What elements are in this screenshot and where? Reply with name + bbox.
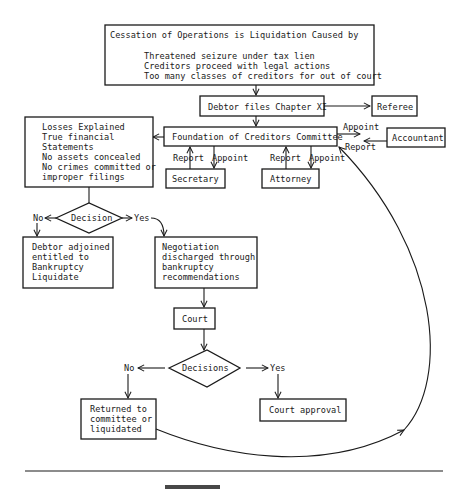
negotiation-line-3: bankruptcy bbox=[162, 262, 214, 272]
cause-1: Threatened seizure under tax lien bbox=[144, 51, 315, 61]
cessation-node: Cessation of Operations is Liquidation C… bbox=[105, 25, 382, 85]
committee-label: Foundation of Creditors Committee bbox=[172, 132, 343, 142]
decision-yes-label: Yes bbox=[134, 213, 150, 223]
decisions-no-label: No bbox=[124, 363, 134, 373]
condition-4: No assets concealed bbox=[42, 152, 140, 162]
attorney-report-label: Report bbox=[270, 153, 301, 163]
arrow-yes-to-negotiation bbox=[151, 218, 164, 236]
referee-label: Referee bbox=[377, 102, 413, 112]
decisions-node: Decisions bbox=[169, 350, 240, 387]
adjoined-line-1: Debtor adjoined bbox=[32, 242, 110, 252]
negotiation-line-4: recommendations bbox=[162, 272, 240, 282]
adjoined-line-2: entitled to bbox=[32, 252, 89, 262]
negotiation-line-2: discharged through bbox=[162, 252, 255, 262]
returned-node: Returned to committee or liquidated bbox=[81, 399, 156, 439]
cause-2: Creditors proceed with legal actions bbox=[144, 61, 330, 71]
condition-5: No crimes committed or bbox=[42, 162, 156, 172]
bankruptcy-flowchart: Cessation of Operations is Liquidation C… bbox=[0, 0, 466, 489]
attorney-appoint-label: Appoint bbox=[309, 153, 345, 163]
court-approval-label: Court approval bbox=[269, 405, 341, 415]
referee-node: Referee bbox=[372, 96, 417, 116]
committee-node: Foundation of Creditors Committee bbox=[164, 127, 343, 146]
attorney-label: Attorney bbox=[270, 174, 311, 184]
court-approval-node: Court approval bbox=[260, 399, 346, 421]
condition-1: Losses Explained bbox=[42, 122, 125, 132]
court-label: Court bbox=[182, 314, 208, 324]
secretary-report-label: Report bbox=[173, 153, 204, 163]
decision-node: Decision bbox=[56, 203, 122, 233]
cause-3: Too many classes of creditors for out of… bbox=[144, 71, 382, 81]
secretary-label: Secretary bbox=[172, 174, 219, 184]
cessation-title: Cessation of Operations is Liquidation C… bbox=[110, 30, 358, 40]
appoint-accountant-label: Appoint bbox=[343, 122, 379, 132]
attorney-node: Attorney bbox=[262, 169, 319, 188]
court-node: Court bbox=[174, 308, 215, 329]
chapter-xi-node: Debtor files Chapter XI bbox=[200, 96, 327, 116]
decisions-yes-label: Yes bbox=[270, 363, 286, 373]
negotiation-node: Negotiation discharged through bankruptc… bbox=[155, 237, 257, 288]
returned-line-2: committee or bbox=[90, 414, 152, 424]
condition-6: improper filings bbox=[42, 172, 125, 182]
condition-3: Statements bbox=[42, 142, 94, 152]
arrow-returned-curve bbox=[156, 429, 404, 457]
arrow-back-to-committee bbox=[339, 147, 430, 430]
decision-label: Decision bbox=[71, 213, 112, 223]
negotiation-line-1: Negotiation bbox=[162, 242, 219, 252]
decision-no-label: No bbox=[33, 213, 43, 223]
accountant-node: Accountant bbox=[387, 128, 445, 147]
adjoined-line-4: Liquidate bbox=[32, 272, 79, 282]
secretary-appoint-label: Appoint bbox=[212, 153, 248, 163]
chapter-xi-label: Debtor files Chapter XI bbox=[208, 102, 327, 112]
report-accountant-label: Report bbox=[345, 142, 376, 152]
returned-line-1: Returned to bbox=[90, 404, 147, 414]
condition-2: True financial bbox=[42, 132, 114, 142]
conditions-node: Losses Explained True financial Statemen… bbox=[25, 117, 156, 187]
figure-caption-cropped bbox=[165, 485, 220, 489]
decisions-label: Decisions bbox=[182, 363, 229, 373]
adjoined-line-3: Bankruptcy bbox=[32, 262, 84, 272]
secretary-node: Secretary bbox=[166, 169, 225, 188]
accountant-label: Accountant bbox=[392, 133, 444, 143]
adjoined-node: Debtor adjoined entitled to Bankruptcy L… bbox=[23, 237, 113, 288]
returned-line-3: liquidated bbox=[90, 424, 142, 434]
